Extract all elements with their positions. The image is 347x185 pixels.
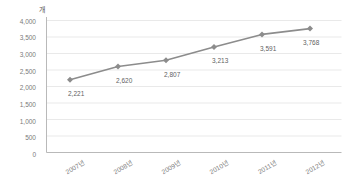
- data-point-label: 2,620: [116, 77, 132, 84]
- data-point-label: 3,591: [260, 45, 276, 52]
- chart-plot-area: [0, 0, 347, 185]
- data-point-label: 2,221: [68, 90, 84, 97]
- gridlines: [47, 21, 342, 137]
- data-point-label: 2,807: [164, 71, 180, 78]
- line-chart: 개 4,000 3,500 3,000 2,500 2,000 1,500 1,…: [0, 0, 347, 185]
- data-point-label: 3,768: [303, 39, 319, 46]
- data-line-series: [70, 29, 310, 80]
- data-point-label: 3,213: [212, 57, 228, 64]
